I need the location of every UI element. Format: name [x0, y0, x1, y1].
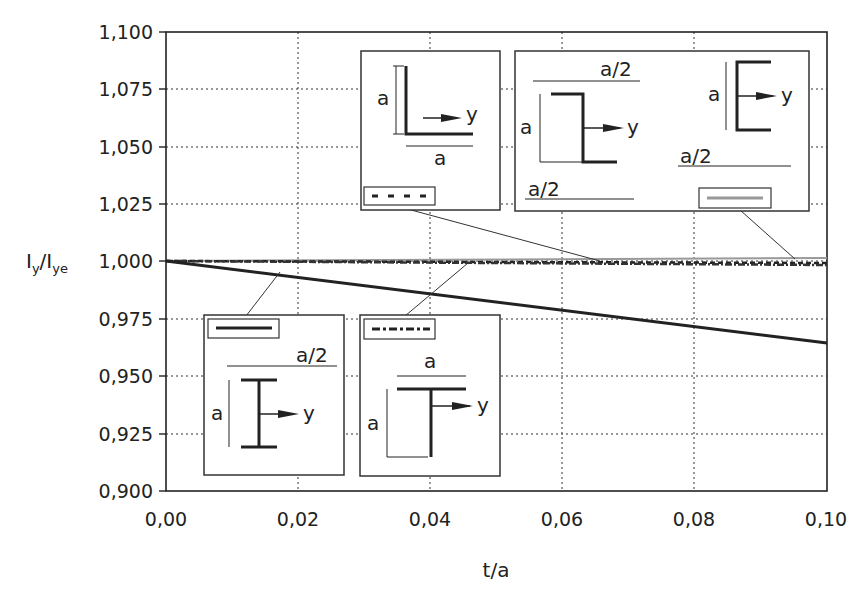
- svg-text:y: y: [627, 115, 639, 139]
- svg-text:a: a: [520, 115, 532, 139]
- x-tick: 0,04: [409, 508, 451, 530]
- x-tick: 0,10: [805, 508, 847, 530]
- y-tick: 0,925: [99, 423, 153, 445]
- y-tick: 0,950: [99, 365, 153, 387]
- y-axis-ticks: 1,100 1,075 1,050 1,025 1,000 0,975 0,95…: [99, 21, 153, 502]
- inset-i-section: a/2 a y: [204, 315, 344, 475]
- y-tick: 1,075: [99, 78, 153, 100]
- inset-zc-sections: a/2 a y a/2 a y a/2: [515, 51, 809, 211]
- x-tick: 0,06: [541, 508, 583, 530]
- x-tick: 0,02: [277, 508, 319, 530]
- y-tick: 1,100: [99, 21, 153, 43]
- inset-t-section: a a y: [360, 315, 500, 476]
- y-tick: 0,900: [99, 480, 153, 502]
- y-tick: 1,025: [99, 193, 153, 215]
- svg-text:a: a: [424, 349, 436, 373]
- x-tick: 0,00: [145, 508, 187, 530]
- y-tick: 0,975: [99, 308, 153, 330]
- svg-text:a/2: a/2: [528, 177, 560, 201]
- svg-text:a: a: [708, 82, 720, 106]
- svg-text:a/2: a/2: [296, 343, 328, 367]
- svg-text:a: a: [434, 146, 446, 170]
- chart: 1,100 1,075 1,050 1,025 1,000 0,975 0,95…: [0, 0, 866, 600]
- y-axis-label: Iy/Iye: [26, 249, 68, 276]
- x-tick: 0,08: [673, 508, 715, 530]
- y-tick: 1,050: [99, 136, 153, 158]
- svg-text:a: a: [211, 401, 223, 425]
- x-axis-ticks: 0,00 0,02 0,04 0,06 0,08 0,10: [145, 508, 847, 530]
- svg-text:y: y: [466, 102, 478, 126]
- svg-text:a: a: [377, 86, 389, 110]
- svg-text:a/2: a/2: [600, 57, 632, 81]
- svg-text:y: y: [781, 83, 793, 107]
- y-tick: 1,000: [99, 250, 153, 272]
- x-axis-label: t/a: [483, 558, 510, 582]
- svg-text:y: y: [303, 401, 315, 425]
- inset-l-section: a a y: [361, 51, 500, 210]
- svg-text:y: y: [477, 393, 489, 417]
- svg-text:a: a: [367, 411, 379, 435]
- svg-text:a/2: a/2: [680, 144, 712, 168]
